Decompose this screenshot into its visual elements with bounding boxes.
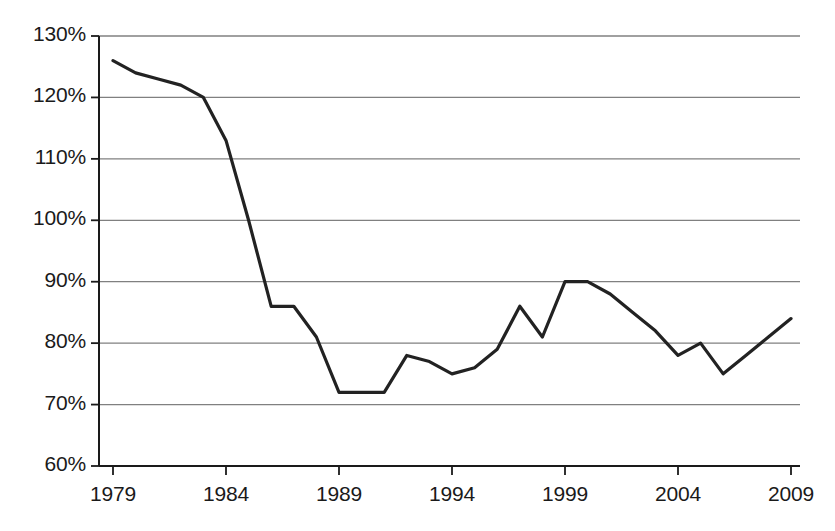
- y-axis-tick-label: 60%: [45, 452, 86, 476]
- y-axis-tick-label: 110%: [35, 145, 86, 169]
- x-axis-ticks: [113, 466, 791, 475]
- gridlines: [99, 36, 800, 405]
- y-axis-tick-label: 70%: [45, 391, 86, 415]
- y-axis-tick-label: 100%: [33, 206, 86, 230]
- y-axis-tick-label: 80%: [45, 329, 86, 353]
- y-axis-tick-label: 90%: [45, 268, 86, 292]
- chart-plot-area: [0, 0, 835, 531]
- line-chart: 130%120%110%100%90%80%70%60% 19791984198…: [0, 0, 835, 531]
- x-axis-tick-label: 1999: [525, 482, 605, 506]
- y-axis-tick-label: 130%: [33, 22, 86, 46]
- x-axis-tick-label: 2004: [638, 482, 718, 506]
- x-axis-tick-label: 2009: [751, 482, 831, 506]
- x-axis-tick-label: 1989: [299, 482, 379, 506]
- x-axis-tick-label: 1994: [412, 482, 492, 506]
- x-axis-tick-label: 1984: [186, 482, 266, 506]
- y-axis-ticks: [91, 36, 99, 466]
- y-axis-tick-label: 120%: [33, 83, 86, 107]
- x-axis-tick-label: 1979: [73, 482, 153, 506]
